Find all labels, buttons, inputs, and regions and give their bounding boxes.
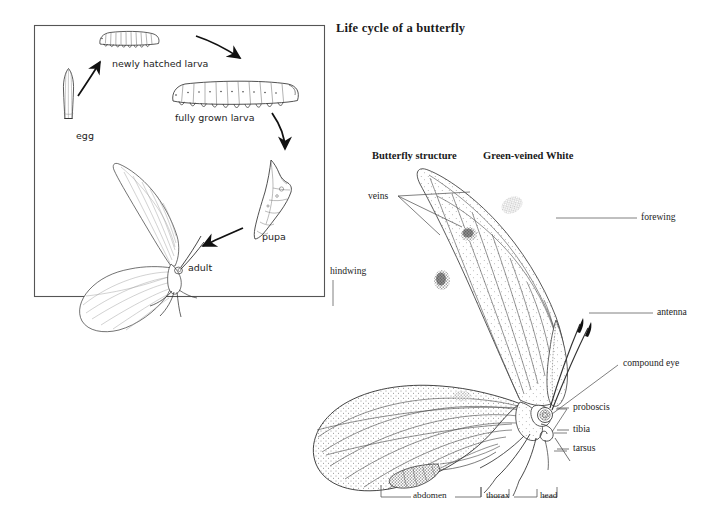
label-thorax: thorax <box>486 490 509 500</box>
heading-species-name: Green-veined White <box>483 150 573 161</box>
arrow-larva-to-pupa <box>272 113 285 149</box>
page-title: Life cycle of a butterfly <box>336 21 465 36</box>
figure-artwork <box>0 0 718 515</box>
label-tibia: tibia <box>573 423 590 434</box>
label-forewing: forewing <box>641 211 676 222</box>
label-newly-hatched-larva: newly hatched larva <box>112 58 208 69</box>
label-tarsus: tarsus <box>573 442 595 453</box>
fully-grown-larva-illustration <box>173 81 299 107</box>
main-butterfly-illustration <box>313 169 591 496</box>
adult-butterfly-illustration <box>80 163 204 331</box>
label-head: head <box>540 490 557 500</box>
label-proboscis: proboscis <box>573 401 610 412</box>
arrow-pupa-to-adult <box>203 228 243 246</box>
heading-butterfly-structure: Butterfly structure <box>372 150 457 161</box>
label-fully-grown-larva: fully grown larva <box>175 112 254 123</box>
label-hindwing: hindwing <box>330 265 366 276</box>
label-egg: egg <box>76 130 94 141</box>
label-pupa: pupa <box>262 231 286 242</box>
arrow-larva-to-grown-larva <box>196 36 240 58</box>
pupa-illustration <box>254 160 291 239</box>
label-antenna: antenna <box>657 306 687 317</box>
label-veins: veins <box>368 190 388 201</box>
egg-illustration <box>63 69 73 119</box>
newly-hatched-larva-illustration <box>100 31 159 47</box>
arrow-egg-to-larva <box>78 62 100 96</box>
label-abdomen: abdomen <box>413 490 447 500</box>
label-compound-eye: compound eye <box>623 357 679 368</box>
label-adult: adult <box>188 262 212 273</box>
